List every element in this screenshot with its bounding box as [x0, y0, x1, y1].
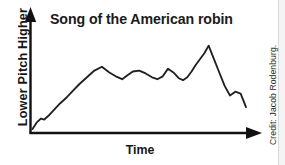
- x-axis-label: Time: [100, 143, 180, 157]
- x-axis-arrowhead-icon: [246, 127, 262, 139]
- robin-song-chart-figure: Song of the American robin Lower Pitch H…: [0, 0, 285, 165]
- x-axis: [30, 127, 263, 139]
- credit-text: Credit: Jacob Rodenburg.: [268, 0, 278, 145]
- page-title: Song of the American robin: [50, 11, 232, 27]
- pitch-contour-line: [33, 46, 247, 130]
- y-axis-label: Lower Pitch Higher: [16, 2, 30, 132]
